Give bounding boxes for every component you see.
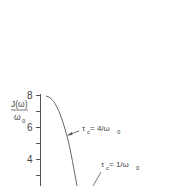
annotation-tau-1-eq-sub: 0 [136,165,140,171]
annotation-tau-4-symbol: τ [82,124,86,133]
ylabel-numerator: J(ω) [11,99,28,109]
annotation-tau-4-eq: = 4/ω [90,124,110,133]
y-tick-label-6: 6 [27,122,33,133]
y-ticks [36,96,41,176]
ylabel-denominator-sub: 0 [22,118,26,124]
annotation-tau-1-eq: = 1/ω [109,160,129,169]
annotation-tau-1-symbol: τ [101,160,105,169]
chart: 8 6 4 J(ω) ω 0 τ c = 4/ω 0 τ c = 1/ω 0 [0,0,184,186]
y-tick-label-4: 4 [27,154,33,165]
curve-tau-4 [46,96,77,186]
y-tick-label-8: 8 [27,90,33,101]
arrowhead-icon [67,132,73,136]
annotation-tau-4-eq-sub: 0 [117,129,121,135]
annotation-arrow-tau-1 [93,172,101,186]
ylabel-denominator: ω [14,112,21,122]
